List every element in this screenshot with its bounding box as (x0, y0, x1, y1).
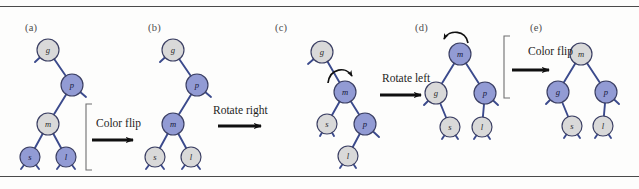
node-label-s: s (153, 152, 157, 162)
tree-stub-s-3 (155, 157, 164, 169)
tree-edge-p-l (482, 93, 485, 127)
tree-node-b-g[interactable]: g (162, 39, 184, 61)
tree-stub-s-3 (572, 126, 580, 138)
tree-edge-m-s (155, 124, 173, 157)
node-circle-m (570, 43, 592, 65)
tree-stub-l-5 (348, 156, 356, 168)
tree-stub-l-5 (603, 126, 611, 138)
tree-edge-p-m (173, 85, 197, 124)
tree-edge-g-p (173, 50, 197, 85)
tree-stub-l-4 (57, 157, 66, 169)
tree-stub-l-5 (66, 157, 75, 169)
node-label-g: g (434, 88, 439, 98)
tree-node-e-s[interactable]: s (562, 116, 582, 136)
tree-edge-m-p (460, 54, 485, 93)
node-label-g: g (556, 87, 561, 97)
tree-stub-l-4 (474, 127, 482, 139)
tree-stub-g-0 (546, 92, 558, 104)
tree-node-d-g[interactable]: g (425, 82, 447, 104)
node-label-l: l (347, 151, 350, 161)
tree-node-c-g[interactable]: g (311, 41, 333, 63)
tree-node-e-g[interactable]: g (547, 81, 569, 103)
node-label-g: g (46, 45, 51, 55)
transition-label-t3: Rotate left (382, 72, 430, 84)
bottom-rule (0, 176, 639, 177)
tree-node-d-s[interactable]: s (440, 117, 460, 137)
tree-node-e-l[interactable]: l (593, 116, 613, 136)
tree-edge-p-l (603, 92, 606, 126)
tree-node-a-g[interactable]: g (37, 39, 59, 61)
tree-node-c-s[interactable]: s (317, 114, 337, 134)
panel-e: mgpsl (546, 43, 619, 138)
node-circle-l (181, 147, 201, 167)
tree-stub-g-0 (160, 50, 173, 62)
tree-node-b-s[interactable]: s (145, 147, 165, 167)
tree-node-c-m[interactable]: m (334, 81, 356, 103)
tree-diagram-layer: gpmslgpmslgmsplmgpslmgpsl (0, 0, 639, 189)
node-label-l: l (190, 152, 193, 162)
tree-node-d-p[interactable]: p (474, 82, 496, 104)
node-label-l: l (602, 121, 605, 131)
tree-node-a-p[interactable]: p (61, 74, 83, 96)
node-circle-p (474, 82, 496, 104)
tree-node-d-m[interactable]: m (449, 43, 471, 65)
node-label-g: g (171, 45, 176, 55)
tree-edge-m-p (581, 54, 606, 92)
node-circle-g (547, 81, 569, 103)
tree-node-c-l[interactable]: l (338, 146, 358, 166)
tree-node-d-l[interactable]: l (472, 117, 492, 137)
tree-node-a-l[interactable]: l (56, 147, 76, 167)
tree-stub-g-0 (308, 52, 322, 64)
tree-node-a-m[interactable]: m (37, 113, 59, 135)
tree-stub-s-3 (30, 157, 39, 169)
tree-stub-l-5 (191, 157, 200, 169)
tree-edge-g-s (558, 92, 572, 126)
transition-bracket-t4 (504, 36, 510, 98)
node-circle-p (354, 113, 376, 135)
tree-stub-s-2 (327, 124, 334, 136)
tree-stub-s-1 (320, 124, 327, 136)
tree-node-b-p[interactable]: p (186, 74, 208, 96)
figure-canvas: gpmslgpmslgmsplmgpslmgpsl (a)(b)(c)(d)(e… (0, 0, 639, 189)
node-circle-g (311, 41, 333, 63)
tree-stub-l-4 (595, 126, 603, 138)
rotate-curved-arrow-c (328, 70, 352, 83)
node-circle-l (593, 116, 613, 136)
tree-node-e-m[interactable]: m (570, 43, 592, 65)
transition-label-t4: Color flip (528, 45, 573, 57)
panel-label-c: (c) (275, 22, 287, 33)
tree-stub-l-4 (340, 156, 348, 168)
node-label-m: m (45, 119, 51, 129)
node-label-s: s (570, 121, 574, 131)
node-circle-s (317, 114, 337, 134)
node-circle-s (145, 147, 165, 167)
node-label-p: p (69, 80, 75, 90)
tree-stub-s-3 (450, 127, 458, 139)
tree-stub-p-1 (72, 85, 86, 97)
rotate-curved-arrow-d (444, 32, 468, 43)
tree-stub-s-2 (21, 157, 30, 169)
tree-node-e-p[interactable]: p (595, 81, 617, 103)
transition-label-t1: Color flip (96, 117, 141, 129)
panel-label-a: (a) (25, 22, 37, 33)
tree-node-b-m[interactable]: m (162, 113, 184, 135)
tree-edge-m-g (558, 54, 581, 92)
panel-label-e: (e) (530, 22, 542, 33)
node-circle-g (162, 39, 184, 61)
node-label-m: m (170, 119, 176, 129)
tree-node-b-l[interactable]: l (181, 147, 201, 167)
tree-stub-g-0 (424, 93, 436, 105)
node-circle-m (162, 113, 184, 135)
panel-label-b: (b) (148, 22, 161, 33)
tree-stub-s-2 (564, 126, 572, 138)
tree-node-a-s[interactable]: s (20, 147, 40, 167)
node-label-p: p (194, 80, 200, 90)
top-rule (0, 6, 639, 7)
panel-b: gpmsl (145, 39, 211, 169)
tree-node-c-p[interactable]: p (354, 113, 376, 135)
node-label-p: p (482, 88, 488, 98)
panel-d: mgpsl (424, 32, 498, 139)
tree-stub-s-2 (146, 157, 155, 169)
node-circle-l (56, 147, 76, 167)
node-circle-g (425, 82, 447, 104)
